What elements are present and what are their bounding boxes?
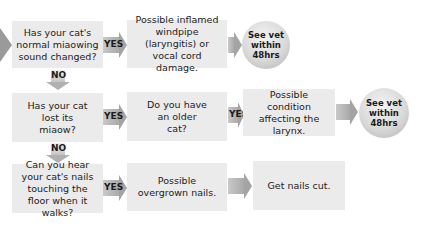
action-text: Get nails cut. [267, 180, 330, 192]
incoming-arrow [0, 28, 12, 62]
yes-arrow: YES [103, 32, 127, 58]
yes-label: YES [104, 182, 123, 192]
question-text: Can you hear your cat's nails touching t… [16, 159, 99, 219]
followup-box-older-cat: Do you have an older cat? [127, 92, 227, 141]
action-text: See vet within 48hrs [363, 98, 405, 128]
result-text: Possible inflamed windpipe (laryngitis) … [131, 14, 223, 74]
action-box-get-nails-cut: Get nails cut. [253, 161, 345, 210]
result-box-laryngitis: Possible inflamed windpipe (laryngitis) … [127, 20, 227, 68]
yes-arrow: YES [103, 104, 127, 130]
yes-arrow: YES [228, 102, 244, 128]
action-text: See vet within 48hrs [246, 30, 286, 60]
question-text: Has your cat's normal miaowing sound cha… [16, 27, 99, 63]
no-label: NO [51, 143, 66, 153]
result-text: Possible condition affecting the larynx. [247, 89, 331, 137]
no-arrow: NO [46, 70, 70, 92]
question-box-nails-touching: Can you hear your cat's nails touching t… [12, 164, 103, 213]
question-box-lost-miaow: Has your cat lost its miaow? [12, 93, 103, 142]
question-text: Has your cat lost its miaow? [23, 100, 93, 136]
action-circle-see-vet: See vet within 48hrs [359, 88, 409, 138]
no-label: NO [51, 70, 66, 80]
followup-text: Do you have an older cat? [147, 99, 207, 135]
question-box-miaow-changed: Has your cat's normal miaowing sound cha… [12, 21, 103, 68]
result-arrow [228, 173, 252, 199]
result-arrow [336, 99, 358, 125]
result-arrow [228, 32, 242, 58]
action-circle-see-vet: See vet within 48hrs [242, 21, 290, 69]
yes-arrow: YES [103, 175, 127, 201]
result-box-overgrown-nails: Possible overgrown nails. [127, 163, 227, 211]
result-box-larynx: Possible condition affecting the larynx. [243, 89, 335, 136]
yes-label: YES [104, 111, 123, 121]
yes-label: YES [104, 39, 123, 49]
result-text: Possible overgrown nails. [134, 175, 220, 199]
